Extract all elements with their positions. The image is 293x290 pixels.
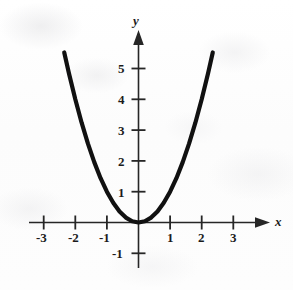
y-tick-label-3: 3: [118, 124, 125, 137]
x-tick-label-2: 2: [198, 231, 205, 244]
y-tick-label-2: 2: [118, 155, 125, 168]
x-tick-label-3: 3: [230, 231, 237, 244]
x-tick-label-1: 1: [167, 231, 174, 244]
x-axis-arrowhead: [255, 217, 270, 228]
coordinate-plane-svg: [0, 0, 293, 290]
y-tick-label-1: 1: [118, 186, 125, 199]
y-tick-label-5: 5: [118, 62, 125, 75]
parabola-figure: -3 -2 -1 1 2 3 5 4 3 2 1 -1 y x: [0, 0, 293, 290]
x-tick-label--1: -1: [99, 231, 110, 244]
y-axis-label: y: [133, 14, 139, 27]
y-axis-arrowhead: [133, 30, 144, 45]
x-tick-label--3: -3: [36, 231, 47, 244]
x-tick-label--2: -2: [68, 231, 79, 244]
y-tick-label--1: -1: [112, 247, 123, 260]
y-tick-label-4: 4: [118, 93, 125, 106]
x-axis-label: x: [275, 215, 282, 228]
